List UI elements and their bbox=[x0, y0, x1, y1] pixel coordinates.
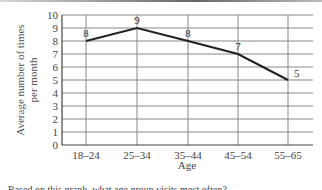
y-tick-label: 9 bbox=[53, 22, 59, 34]
y-tick-label: 4 bbox=[53, 87, 59, 99]
data-label: 5 bbox=[294, 67, 300, 79]
y-tick-label: 1 bbox=[53, 126, 59, 138]
x-tick-label: 45–54 bbox=[224, 149, 252, 161]
x-axis-label: Age bbox=[178, 159, 196, 171]
y-tick-label: 8 bbox=[53, 35, 59, 47]
y-tick-labels: 012345678910 bbox=[47, 9, 59, 151]
caption: Based on this graph, what age group visi… bbox=[8, 184, 227, 190]
data-label: 7 bbox=[235, 40, 241, 52]
y-axis-label-line2: per month bbox=[27, 57, 39, 102]
y-tick-label: 2 bbox=[53, 113, 59, 125]
y-tick-label: 3 bbox=[53, 100, 59, 112]
data-label: 8 bbox=[185, 27, 191, 39]
y-tick-label: 7 bbox=[53, 48, 59, 60]
x-tick-label: 25–34 bbox=[123, 149, 151, 161]
y-tick-label: 0 bbox=[53, 139, 59, 151]
x-tick-label: 55–65 bbox=[274, 149, 302, 161]
y-tick-label: 6 bbox=[53, 61, 59, 73]
y-axis-label: Average number of times per month bbox=[14, 24, 39, 135]
data-label: 9 bbox=[134, 14, 140, 26]
y-axis-label-line1: Average number of times bbox=[14, 24, 26, 135]
x-tick-label: 18–24 bbox=[72, 149, 100, 161]
line-chart: 012345678910 18–2425–3435–4445–5455–65 8… bbox=[0, 0, 322, 190]
y-tick-label: 10 bbox=[47, 9, 59, 21]
data-label: 8 bbox=[83, 27, 89, 39]
y-tick-label: 5 bbox=[53, 74, 59, 86]
